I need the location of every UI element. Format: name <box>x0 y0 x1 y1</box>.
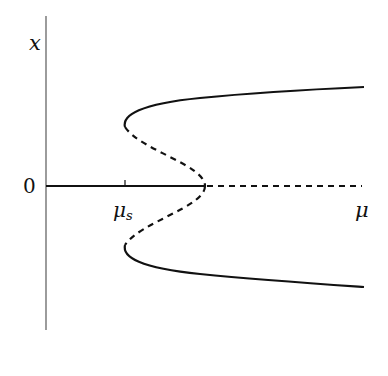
lower-stable-branch <box>125 245 364 287</box>
upper-stable-branch <box>125 87 364 127</box>
upper-unstable-branch <box>125 127 205 186</box>
x-axis-label: μ <box>355 198 369 222</box>
y-axis-label: x <box>29 31 41 55</box>
mu-s-label: μs <box>113 198 133 223</box>
bifurcation-diagram: x 0 μ μs <box>0 0 388 376</box>
lower-unstable-branch <box>125 186 205 245</box>
origin-label: 0 <box>23 174 36 198</box>
